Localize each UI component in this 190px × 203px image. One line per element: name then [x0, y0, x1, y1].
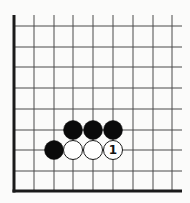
stones: 1 [45, 121, 123, 160]
black-stone [104, 121, 123, 140]
grid-lines [14, 15, 182, 191]
black-stone [45, 141, 64, 160]
go-board-diagram: 1 [0, 0, 190, 203]
white-stone [64, 141, 83, 160]
move-number-label: 1 [109, 143, 117, 157]
board-edges [13, 15, 183, 193]
white-stone [84, 141, 103, 160]
black-stone [84, 121, 103, 140]
black-stone [64, 121, 83, 140]
